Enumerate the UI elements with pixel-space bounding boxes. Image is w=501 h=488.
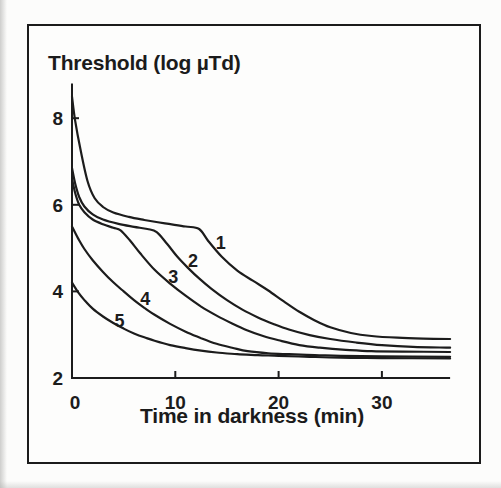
y-tick-label: 8 xyxy=(52,108,63,129)
y-tick-label: 4 xyxy=(52,281,63,302)
x-axis-title: Time in darkness (min) xyxy=(60,404,444,428)
y-tick-label: 6 xyxy=(52,195,63,216)
axes-lines xyxy=(72,84,450,378)
curve-label-3: 3 xyxy=(168,267,178,287)
y-tick-label: 2 xyxy=(52,368,63,389)
curve-label-5: 5 xyxy=(114,311,124,331)
curve-label-4: 4 xyxy=(140,289,150,309)
curve-5 xyxy=(72,283,450,359)
curve-label-2: 2 xyxy=(188,251,198,271)
curve-label-1: 1 xyxy=(216,233,226,253)
figure-page: Threshold (log µTd) 2468010203012345 Tim… xyxy=(0,0,501,488)
curve-1 xyxy=(72,97,450,339)
curve-2 xyxy=(72,168,450,348)
curve-3 xyxy=(72,179,450,352)
